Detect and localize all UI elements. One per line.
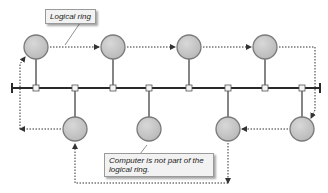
computer-node-top-3	[177, 35, 201, 59]
computer-node-bottom-1	[63, 117, 87, 141]
callout-not-part-text: Computer is not part of the logical ring…	[109, 156, 204, 174]
callout-not-part-of-ring: Computer is not part of the logical ring…	[104, 153, 214, 177]
computer-node-top-4	[253, 35, 277, 59]
computer-node-top-2	[101, 35, 125, 59]
computer-node-bottom-3	[216, 117, 240, 141]
computer-node-bottom-2-not-in-ring	[137, 117, 161, 141]
computer-node-bottom-4	[290, 117, 314, 141]
bus-line	[12, 83, 320, 93]
callout-logical-ring: Logical ring	[45, 9, 96, 24]
callout-logical-ring-text: Logical ring	[50, 12, 91, 21]
computer-node-top-1	[24, 35, 48, 59]
